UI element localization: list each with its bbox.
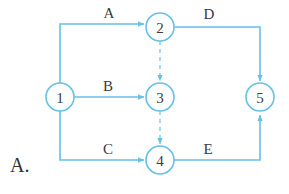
node-3-label: 3	[156, 90, 164, 106]
edge-label-C: C	[103, 141, 113, 157]
node-5-label: 5	[256, 90, 264, 106]
node-3[interactable]: 3	[146, 83, 174, 111]
edge-label-B: B	[103, 78, 113, 94]
node-4[interactable]: 4	[146, 146, 174, 174]
edge-label-E: E	[203, 141, 212, 157]
network-diagram-figure: 1 2 3 4 5 A B C D E	[0, 0, 289, 194]
node-1-label: 1	[56, 90, 64, 106]
node-5[interactable]: 5	[246, 83, 274, 111]
edge-label-A: A	[104, 5, 115, 21]
node-2[interactable]: 2	[146, 13, 174, 41]
edge-label-D: D	[204, 6, 215, 22]
node-group: 1 2 3 4 5	[46, 13, 274, 174]
node-2-label: 2	[156, 20, 164, 36]
node-4-label: 4	[156, 153, 164, 169]
figure-caption: A.	[10, 154, 29, 176]
edge-path-D	[174, 27, 260, 81]
node-1[interactable]: 1	[46, 83, 74, 111]
network-diagram-svg: 1 2 3 4 5 A B C D E	[0, 0, 289, 194]
edge-path-E	[174, 115, 260, 160]
